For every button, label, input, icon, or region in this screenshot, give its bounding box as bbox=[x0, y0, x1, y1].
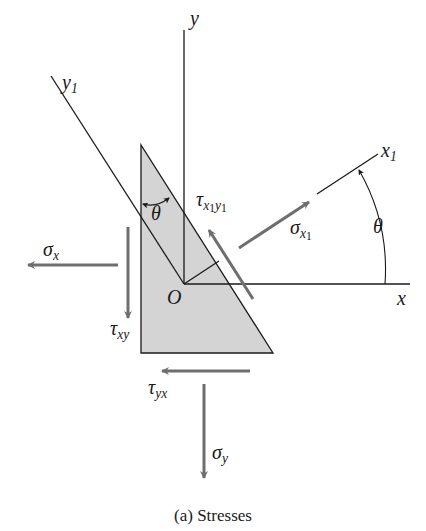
stress-diagram: y x y1 x1 O θ θ σx τxy τyx σy σx1 τx1y1 … bbox=[0, 0, 426, 531]
sigma-x1-label: σx1 bbox=[290, 217, 312, 242]
x-axis-label: x bbox=[397, 288, 406, 308]
x1-axis-line bbox=[317, 154, 378, 194]
theta-axes-label: θ bbox=[373, 216, 383, 236]
sigma-x-label: σx bbox=[43, 239, 59, 263]
origin-label: O bbox=[167, 287, 181, 307]
y1-axis-line bbox=[51, 76, 184, 284]
figure-caption: (a) Stresses bbox=[0, 506, 426, 526]
wedge-element bbox=[141, 145, 273, 353]
tau-xy-label: τxy bbox=[110, 318, 129, 342]
tau-x1y1-label: τx1y1 bbox=[196, 189, 227, 214]
tau-yx-label: τyx bbox=[148, 377, 167, 401]
x1-axis-label: x1 bbox=[381, 140, 397, 164]
y1-axis-label: y1 bbox=[62, 72, 78, 96]
theta-element-label: θ bbox=[151, 203, 161, 223]
sigma-y-label: σy bbox=[212, 442, 228, 466]
y-axis-label: y bbox=[190, 8, 199, 28]
